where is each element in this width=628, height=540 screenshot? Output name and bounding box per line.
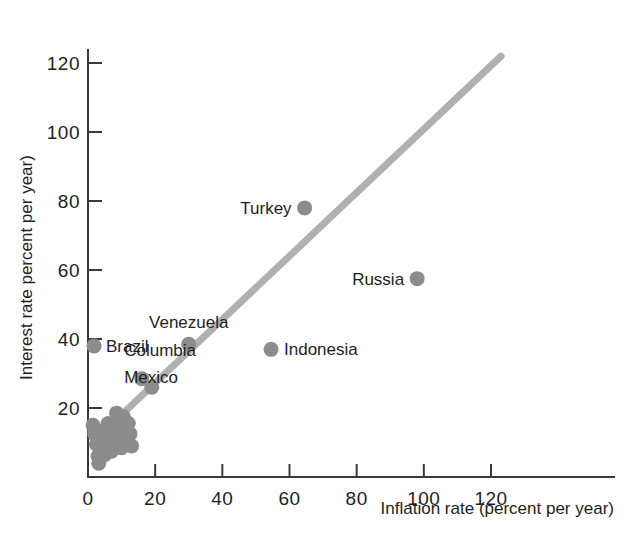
point-label-mexico: Mexico xyxy=(124,368,178,387)
x-tick-label-60: 60 xyxy=(278,488,300,509)
point-label-turkey: Turkey xyxy=(240,199,292,218)
data-point-turkey xyxy=(297,200,312,215)
point-label-russia: Russia xyxy=(352,270,405,289)
y-tick-label-20: 20 xyxy=(58,398,80,419)
scatter-chart: 20406080100120020406080100120 TurkeyRuss… xyxy=(0,0,628,540)
x-axis-title: Inflation rate (percent per year) xyxy=(381,499,614,518)
data-point-indonesia xyxy=(264,342,279,357)
x-tick-label-40: 40 xyxy=(211,488,233,509)
chart-canvas: 20406080100120020406080100120 TurkeyRuss… xyxy=(0,0,628,540)
data-point-russia xyxy=(410,271,425,286)
y-tick-label-60: 60 xyxy=(58,260,80,281)
data-point xyxy=(124,438,139,453)
y-tick-label-40: 40 xyxy=(58,329,80,350)
axes-group xyxy=(88,50,614,477)
point-label-indonesia: Indonesia xyxy=(284,340,358,359)
y-tick-label-120: 120 xyxy=(47,53,80,74)
x-tick-label-0: 0 xyxy=(82,488,93,509)
y-tick-label-100: 100 xyxy=(47,122,80,143)
x-tick-label-80: 80 xyxy=(346,488,368,509)
y-axis-title: Interest rate percent per year) xyxy=(17,155,36,380)
x-tick-label-20: 20 xyxy=(144,488,166,509)
data-point-brazil xyxy=(87,338,102,353)
point-label-venezuela: Venezuela xyxy=(149,313,229,332)
point-label-columbia: Columbia xyxy=(124,341,196,360)
data-points-group xyxy=(86,200,425,470)
y-tick-label-80: 80 xyxy=(58,191,80,212)
